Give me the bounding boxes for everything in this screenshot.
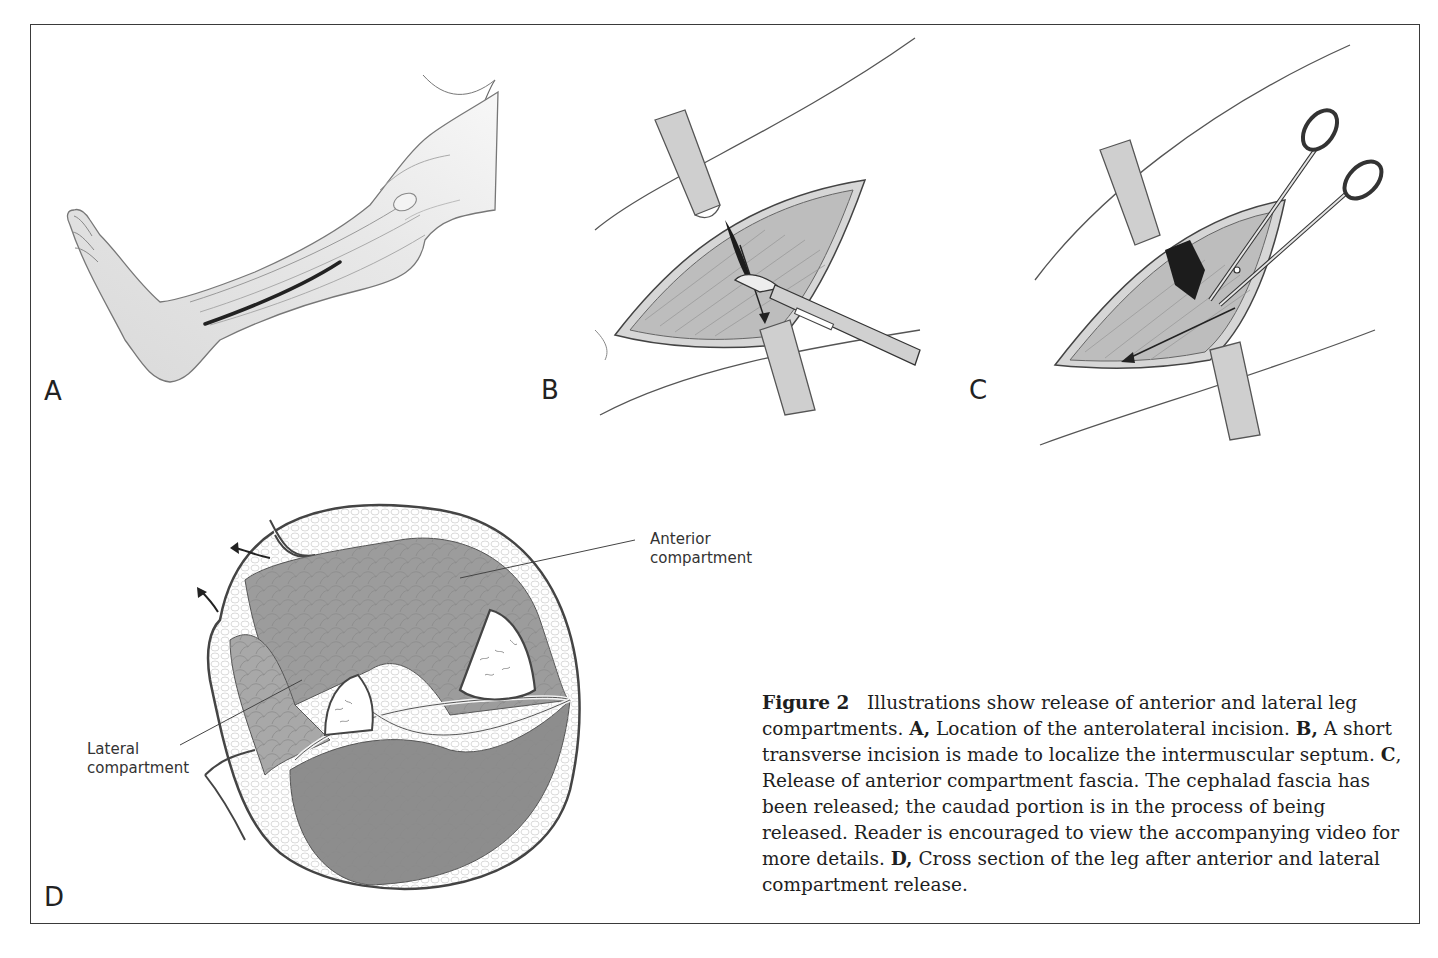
lateral-compartment-label: Lateral compartment: [87, 740, 189, 778]
figure-caption: Figure 2 Illustrations show release of a…: [762, 690, 1402, 898]
panel-letter-c: C: [969, 375, 987, 405]
fascia-release-scissors-drawing: [965, 30, 1405, 450]
anterior-compartment-label: Anterior compartment: [650, 530, 752, 568]
panel-letter-b: B: [541, 375, 559, 405]
figure-number: Figure 2: [762, 692, 849, 713]
panel-b-scalpel-incision: B: [535, 30, 925, 420]
panel-letter-a: A: [44, 376, 62, 406]
panel-a-leg-illustration: A: [40, 40, 520, 410]
panel-c-scissors-release: C: [965, 30, 1405, 450]
panel-letter-d: D: [44, 882, 64, 912]
incision-scalpel-drawing: [535, 30, 925, 420]
leg-drawing: [40, 40, 520, 410]
panel-d-cross-section: Anterior compartment Lateral compartment…: [40, 500, 760, 920]
